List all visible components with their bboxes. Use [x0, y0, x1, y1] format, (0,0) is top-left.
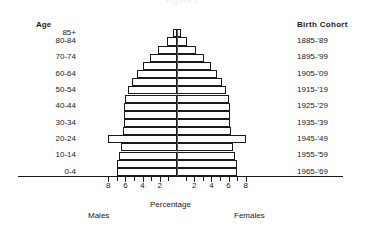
birth-cohort-axis-labels: 1885-'891895-'991905-'091915-'191925-'29… [297, 0, 365, 231]
male-bar [121, 143, 177, 151]
x-tick-label: 2 [153, 181, 167, 190]
x-tick-label: 8 [101, 181, 115, 190]
birth-cohort-label: 1935-'39 [297, 118, 328, 127]
male-bar [150, 54, 177, 62]
x-tick-label: 2 [187, 181, 201, 190]
age-label: 0-4 [64, 167, 76, 176]
x-tick-label: 8 [239, 181, 253, 190]
birth-cohort-label: 1905-'09 [297, 69, 328, 78]
age-axis-labels: 85+80-8470-7460-6450-5440-4430-3420-2410… [14, 0, 76, 231]
female-bar [177, 160, 237, 168]
male-bar [158, 46, 177, 54]
female-bar [177, 37, 187, 45]
birth-cohort-label: 1945-'49 [297, 134, 328, 143]
female-bar [177, 70, 217, 78]
male-bar [125, 95, 177, 103]
female-bar [177, 119, 230, 127]
x-axis-title: Percentage [150, 200, 191, 209]
female-bar [177, 78, 222, 86]
female-bar [177, 95, 229, 103]
male-bar [128, 86, 177, 94]
birth-cohort-label: 1895-'99 [297, 52, 328, 61]
male-bar [117, 160, 177, 168]
age-label: 80-84 [56, 36, 76, 45]
population-pyramid-chart: Figure 1 Age Birth Cohort 86422468 85+80… [0, 0, 365, 231]
male-bar [124, 111, 177, 119]
birth-cohort-label: 1955-'59 [297, 150, 328, 159]
female-bar [177, 168, 237, 176]
females-side-label: Females [234, 211, 265, 220]
male-bar [124, 103, 177, 111]
female-bar [177, 54, 204, 62]
female-bar [177, 103, 230, 111]
x-tick-label: 4 [136, 181, 150, 190]
female-bar [177, 152, 235, 160]
male-bar [124, 119, 177, 127]
female-bar [177, 62, 211, 70]
female-bar [177, 46, 196, 54]
age-label: 10-14 [56, 150, 76, 159]
female-bar [177, 127, 231, 135]
male-bar [108, 135, 177, 143]
male-bar [119, 152, 177, 160]
male-bar [137, 70, 177, 78]
female-bar [177, 111, 230, 119]
x-tick-label: 6 [118, 181, 132, 190]
birth-cohort-label: 1925-'29 [297, 101, 328, 110]
age-label: 40-44 [56, 101, 76, 110]
male-bar [132, 78, 177, 86]
x-tick-label: 4 [204, 181, 218, 190]
birth-cohort-label: 1885-'89 [297, 36, 328, 45]
age-label: 50-54 [56, 85, 76, 94]
x-tick-label: 6 [222, 181, 236, 190]
male-bar [167, 37, 177, 45]
male-bar [123, 127, 177, 135]
age-label: 20-24 [56, 134, 76, 143]
male-bar [143, 62, 177, 70]
x-tick [168, 177, 169, 181]
age-label: 70-74 [56, 52, 76, 61]
female-bar [177, 143, 233, 151]
center-axis-line [177, 30, 178, 177]
age-label: 60-64 [56, 69, 76, 78]
birth-cohort-label: 1965-'69 [297, 167, 328, 176]
female-bar [177, 135, 246, 143]
birth-cohort-label: 1915-'19 [297, 85, 328, 94]
female-bar [177, 86, 226, 94]
males-side-label: Males [88, 211, 109, 220]
male-bar [117, 168, 177, 176]
age-label: 30-34 [56, 118, 76, 127]
